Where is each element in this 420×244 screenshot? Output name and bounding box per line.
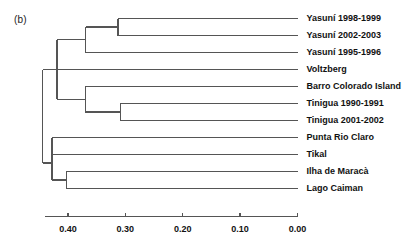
axis-tick-label: 0.40 xyxy=(59,225,77,234)
leaf-label: Ilha de Maracà xyxy=(307,167,369,176)
leaf-label: Barro Colorado Island xyxy=(307,82,402,91)
leaf-label: Tinigua 1990-1991 xyxy=(307,99,384,108)
leaf-label: Yasuní 1995-1996 xyxy=(307,48,382,57)
leaf-label: Yasuní 2002-2003 xyxy=(307,31,382,40)
panel-label: (b) xyxy=(14,14,27,25)
leaf-label: Tikal xyxy=(307,150,327,159)
leaf-label: Tinigua 2001-2002 xyxy=(307,116,384,125)
axis-tick-label: 0.10 xyxy=(231,225,249,234)
leaf-label: Voltzberg xyxy=(307,65,347,74)
axis-tick-label: 0.00 xyxy=(289,225,307,234)
axis-tick-label: 0.30 xyxy=(117,225,135,234)
leaf-label: Yasuní 1998-1999 xyxy=(307,14,382,23)
dendrogram-figure: (b) Yasuní 1998-1999Yasuní 2002-2003Yasu… xyxy=(0,0,420,244)
leaf-label: Punta Rio Claro xyxy=(307,133,375,142)
axis-tick-label: 0.20 xyxy=(174,225,192,234)
leaf-label: Lago Caiman xyxy=(307,184,364,193)
